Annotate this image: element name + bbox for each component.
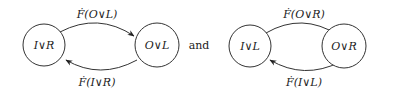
node-label: I∨R [33,39,55,52]
diagram-left: I∨R O∨L Ḟ(O∨L) Ḟ(I∨R) [23,7,179,89]
node-label: O∨R [331,40,356,53]
node-label: I∨L [239,40,260,53]
edge-label: Ḟ(O∨L) [76,7,118,21]
diagram-canvas: I∨R O∨L Ḟ(O∨L) Ḟ(I∨R) and I∨L O∨R Ḟ(O∨R)… [0,0,402,95]
node-label: O∨L [145,39,169,52]
edge-label: Ḟ(I∨R) [78,75,116,89]
edge-label: Ḟ(I∨L) [285,75,322,89]
edge-label: Ḟ(O∨R) [282,7,325,21]
connector-text: and [189,39,210,52]
edge-arrow-top-left [60,23,134,36]
edge-arrow-bottom-left [66,60,137,70]
diagram-right: I∨L O∨R Ḟ(O∨R) Ḟ(I∨L) [229,7,366,89]
